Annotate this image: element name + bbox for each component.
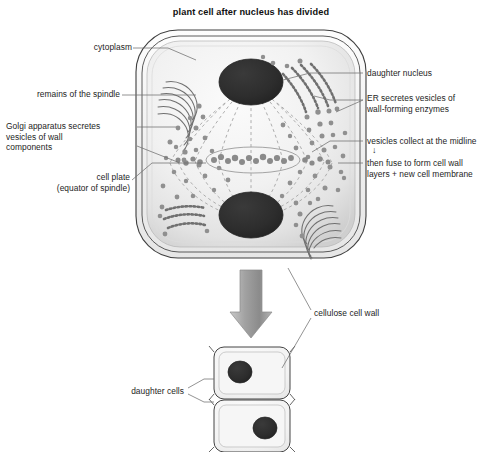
leader-daughter-cells <box>188 379 214 388</box>
diagram-canvas: plant cell after nucleus has divided <box>0 0 502 452</box>
daughter-cells <box>209 346 295 452</box>
label-daughter-cells: daughter cells <box>72 386 184 397</box>
label-cellulose-cell-wall: cellulose cell wall <box>314 308 464 319</box>
label-vesicles-collect-midline: vesicles collect at the midline <box>367 136 501 147</box>
leader-cellulose-wall-2 <box>282 318 311 368</box>
label-remains-of-the-spindle: remains of the spindle <box>4 89 120 100</box>
transition-arrow <box>230 270 272 338</box>
down-arrow-icon: ↓ <box>372 146 377 155</box>
label-daughter-nucleus: daughter nucleus <box>367 68 499 79</box>
daughter-nucleus-bottom <box>219 192 283 238</box>
daughter-cell-bottom-nucleus <box>253 417 277 439</box>
leader-cellulose-wall <box>288 268 311 310</box>
daughter-cell-top-nucleus <box>228 361 252 383</box>
label-cytoplasm: cytoplasm <box>10 42 132 53</box>
label-golgi-apparatus: Golgi apparatus secretes vesicles of wal… <box>6 121 138 153</box>
daughter-nucleus-top <box>219 59 283 105</box>
label-er-secretes: ER secretes vesicles of wall-forming enz… <box>367 93 501 114</box>
daughter-cell-bottom <box>209 399 295 452</box>
label-cell-plate: cell plate (equator of spindle) <box>6 172 130 193</box>
label-then-fuse: then fuse to form cell wall layers + new… <box>367 158 502 179</box>
daughter-cell-top <box>209 346 295 400</box>
